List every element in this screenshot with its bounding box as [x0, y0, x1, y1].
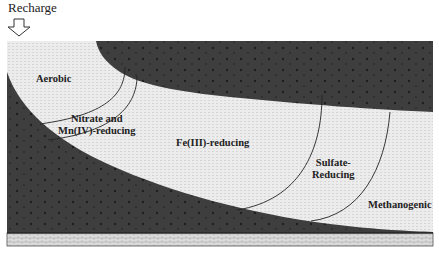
- zone-label-nitrate-mn: Nitrate and Mn(IV)-reducing: [58, 113, 135, 137]
- zone-label-aerobic: Aerobic: [36, 73, 71, 85]
- zone-label-sulfate: Sulfate- Reducing: [312, 157, 355, 181]
- bedrock-layer: [7, 233, 433, 246]
- down-arrow-icon: [8, 19, 30, 36]
- zone-label-fe-reducing: Fe(III)-reducing: [176, 137, 249, 149]
- zone-label-methanogenic: Methanogenic: [368, 199, 432, 211]
